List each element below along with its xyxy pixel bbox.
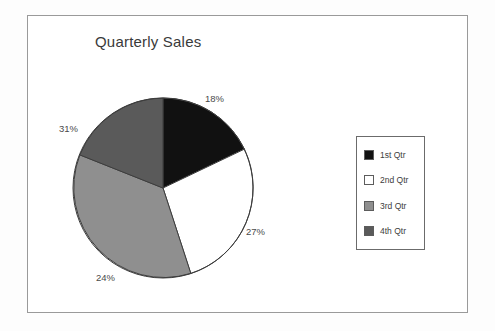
chart-canvas: Quarterly Sales 18% 27% 24% 31% 1st Qtr bbox=[0, 0, 495, 331]
legend-item-3rd-qtr[interactable]: 3rd Qtr bbox=[364, 196, 424, 216]
legend-swatch-4th-qtr bbox=[364, 226, 374, 236]
legend-list: 1st Qtr 2nd Qtr 3rd Qtr 4th Qtr bbox=[357, 137, 424, 249]
pie-chart-svg bbox=[72, 97, 254, 279]
legend-swatch-1st-qtr bbox=[364, 150, 374, 160]
pie-chart-plot bbox=[72, 97, 254, 279]
legend-label-4th-qtr: 4th Qtr bbox=[380, 226, 406, 236]
data-label-1st-qtr: 18% bbox=[205, 93, 224, 104]
legend-label-1st-qtr: 1st Qtr bbox=[380, 150, 406, 160]
legend-item-4th-qtr[interactable]: 4th Qtr bbox=[364, 221, 424, 241]
legend-swatch-2nd-qtr bbox=[364, 175, 374, 185]
legend-label-2nd-qtr: 2nd Qtr bbox=[380, 175, 408, 185]
chart-title: Quarterly Sales bbox=[95, 33, 201, 50]
chart-legend: 1st Qtr 2nd Qtr 3rd Qtr 4th Qtr bbox=[356, 136, 425, 250]
legend-swatch-3rd-qtr bbox=[364, 201, 374, 211]
data-label-2nd-qtr: 27% bbox=[246, 226, 265, 237]
data-label-4th-qtr: 31% bbox=[59, 123, 78, 134]
legend-label-3rd-qtr: 3rd Qtr bbox=[380, 201, 406, 211]
data-label-3rd-qtr: 24% bbox=[96, 272, 115, 283]
legend-item-2nd-qtr[interactable]: 2nd Qtr bbox=[364, 170, 424, 190]
legend-item-1st-qtr[interactable]: 1st Qtr bbox=[364, 145, 424, 165]
